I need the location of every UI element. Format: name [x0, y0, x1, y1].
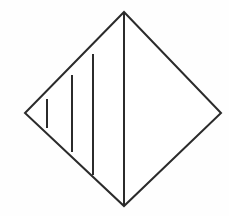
- diamond-figure-svg: [0, 0, 229, 216]
- figure-canvas: [0, 0, 229, 216]
